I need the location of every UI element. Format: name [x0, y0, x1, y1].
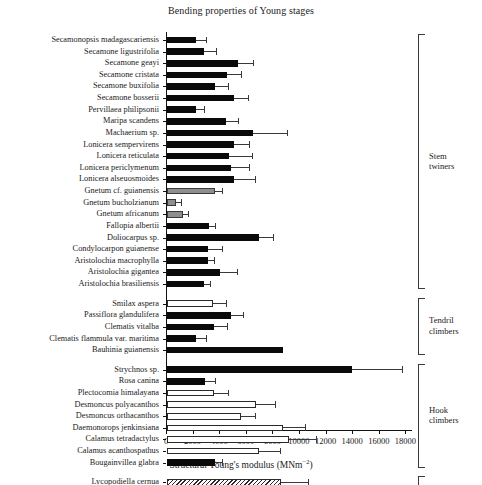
- y-axis-tick: [163, 226, 166, 227]
- error-bar-cap: [181, 199, 182, 206]
- category-label: Rosa canina: [0, 375, 162, 387]
- error-bar-cap: [238, 118, 239, 125]
- error-bar-cap: [253, 60, 254, 67]
- bar-row: Maripa scandens: [0, 115, 482, 127]
- bar-row: Strychnos sp.: [0, 364, 482, 376]
- bar-row: Lonicera reticulata: [0, 150, 482, 162]
- error-bar-cap: [308, 479, 309, 485]
- bar-row: Smilax aspera: [0, 298, 482, 310]
- category-label: Lonicera alseuosmoides: [0, 173, 162, 185]
- category-label: Secamone buxifolia: [0, 80, 162, 92]
- error-bar-cap: [255, 176, 256, 183]
- bar-row: Gnetum bucholzianum: [0, 197, 482, 209]
- category-label: Lycopodiella cernua: [0, 476, 162, 485]
- y-axis-tick: [163, 238, 166, 239]
- error-bar-cap: [237, 269, 238, 276]
- y-axis-tick: [163, 482, 166, 483]
- bar: [167, 300, 213, 307]
- category-label: Gnetum cf. guianensis: [0, 185, 162, 197]
- error-bar: [234, 179, 255, 180]
- bar: [167, 234, 259, 241]
- y-axis-tick: [163, 451, 166, 452]
- error-bar-cap: [273, 234, 274, 241]
- error-bar-cap: [243, 312, 244, 319]
- error-bar-cap: [248, 95, 249, 102]
- y-axis-tick: [163, 86, 166, 87]
- bar-row: Passiflora glandulifera: [0, 309, 482, 321]
- bar: [167, 95, 234, 102]
- category-label: Lonicera periclymenum: [0, 162, 162, 174]
- error-bar-cap: [206, 335, 207, 342]
- bar-row: Bauhinia guianensis: [0, 344, 482, 356]
- category-label: Secamone cristata: [0, 69, 162, 81]
- bar-row: Fallopia albertii: [0, 220, 482, 232]
- y-axis-tick: [163, 121, 166, 122]
- y-axis-tick: [163, 52, 166, 53]
- bar: [167, 165, 231, 172]
- error-bar: [196, 40, 205, 41]
- y-axis-tick: [163, 304, 166, 305]
- bar-row: Clematis vitalba: [0, 321, 482, 333]
- error-bar: [281, 482, 308, 483]
- error-bar-cap: [249, 164, 250, 171]
- error-bar: [259, 237, 274, 238]
- category-label: Secamone bosserii: [0, 92, 162, 104]
- error-bar-cap: [222, 246, 223, 253]
- category-label: Passiflora glandulifera: [0, 309, 162, 321]
- bar-row: Calamus tetradactylus: [0, 433, 482, 445]
- bar-row: Secamone buxifolia: [0, 80, 482, 92]
- error-bar: [234, 144, 249, 145]
- y-axis-tick: [163, 98, 166, 99]
- error-bar-cap: [275, 401, 276, 408]
- category-label: Smilax aspera: [0, 298, 162, 310]
- bar-row: Secamonopsis madagascariensis: [0, 34, 482, 46]
- category-label: Doliocarpus sp.: [0, 232, 162, 244]
- y-axis-tick: [163, 439, 166, 440]
- bar: [167, 223, 209, 230]
- error-bar-cap: [287, 130, 288, 137]
- bar-row: Pervillaea philipsonii: [0, 104, 482, 116]
- y-axis-tick: [163, 339, 166, 340]
- error-bar: [241, 416, 255, 417]
- error-bar: [208, 249, 221, 250]
- category-label: Secamone geayi: [0, 57, 162, 69]
- y-axis-tick: [163, 133, 166, 134]
- category-label: Plectocomia himalayana: [0, 387, 162, 399]
- error-bar: [226, 121, 238, 122]
- bar: [167, 106, 196, 113]
- y-axis-tick: [163, 315, 166, 316]
- category-label: Bauhinia guianensis: [0, 344, 162, 356]
- category-label: Daemonorops jenkinsiana: [0, 422, 162, 434]
- bar-row: Aristolochia macrophylla: [0, 255, 482, 267]
- bar: [167, 130, 253, 137]
- error-bar-cap: [227, 323, 228, 330]
- y-axis-tick: [163, 145, 166, 146]
- bar-row: Lycopodiella cernua: [0, 476, 482, 485]
- bar: [167, 199, 176, 206]
- bar-row: Lonicera sempervirens: [0, 139, 482, 151]
- error-bar: [256, 404, 275, 405]
- y-axis-tick: [163, 40, 166, 41]
- bar-row: Secamone cristata: [0, 69, 482, 81]
- bar: [167, 335, 196, 342]
- bar-row: Daemonorops jenkinsiana: [0, 422, 482, 434]
- error-bar-cap: [206, 37, 207, 44]
- y-axis-tick: [163, 272, 166, 273]
- error-bar-cap: [305, 424, 306, 431]
- category-label: Desmoncus orthacanthos: [0, 410, 162, 422]
- bar-row: Condylocarpon guianense: [0, 243, 482, 255]
- bar: [167, 324, 214, 331]
- error-bar: [259, 451, 280, 452]
- category-label: Desmoncus polyacanthos: [0, 399, 162, 411]
- bar: [167, 413, 241, 420]
- error-bar: [231, 167, 250, 168]
- y-axis-tick: [163, 428, 166, 429]
- bar-row: Doliocarpus sp.: [0, 232, 482, 244]
- y-axis-tick: [163, 156, 166, 157]
- bar: [167, 269, 220, 276]
- y-axis-tick: [163, 110, 166, 111]
- y-axis-tick: [163, 203, 166, 204]
- bar-row: Desmoncus polyacanthos: [0, 399, 482, 411]
- category-label: Machaerium sp.: [0, 127, 162, 139]
- bar: [167, 246, 208, 253]
